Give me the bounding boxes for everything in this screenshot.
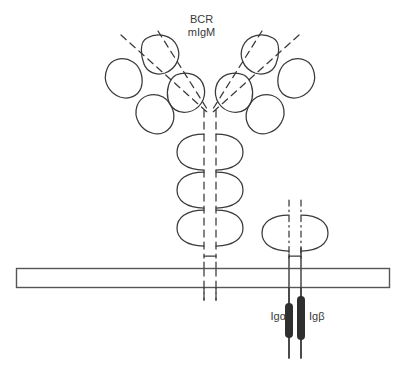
ig-beta-itam bbox=[297, 296, 305, 340]
ig-alpha-label: Igα bbox=[258, 310, 286, 323]
plasma-membrane bbox=[17, 269, 390, 288]
right-arm-chain-inner bbox=[211, 31, 262, 112]
stem-domain-pair-2 bbox=[177, 172, 243, 208]
left-arm-domain-2 bbox=[105, 59, 142, 98]
stem-domain-pair-3 bbox=[177, 210, 243, 246]
bcr-diagram bbox=[0, 0, 403, 380]
ig-beta-domain bbox=[301, 215, 328, 251]
bcr-label-line1: BCR bbox=[0, 13, 403, 26]
right-arm-domain-4 bbox=[246, 95, 284, 134]
bcr-label-line2: mIgM bbox=[0, 26, 403, 39]
ig-alpha-domain bbox=[262, 215, 289, 251]
figure-canvas: BCR mIgM Igα Igβ bbox=[0, 0, 403, 380]
ig-alpha-itam bbox=[285, 303, 293, 338]
right-arm-domain-2 bbox=[278, 59, 315, 98]
stem-domain-pair-1 bbox=[177, 134, 243, 170]
left-arm-domain-4 bbox=[136, 95, 174, 134]
bcr-migm-label: BCR mIgM bbox=[0, 13, 403, 39]
left-arm-chain-inner bbox=[158, 31, 209, 112]
ig-beta-label: Igβ bbox=[309, 310, 339, 323]
